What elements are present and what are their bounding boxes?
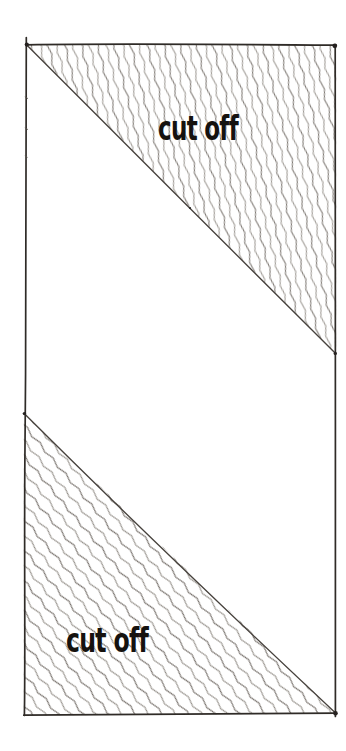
top-cutoff-label: cut off xyxy=(158,109,239,148)
hand-drawn-figure: cut off cut off xyxy=(0,0,346,751)
top-edge-line xyxy=(27,44,337,45)
diagram-svg: cut off cut off xyxy=(0,0,346,751)
bottom-cutoff-label: cut off xyxy=(66,621,149,660)
